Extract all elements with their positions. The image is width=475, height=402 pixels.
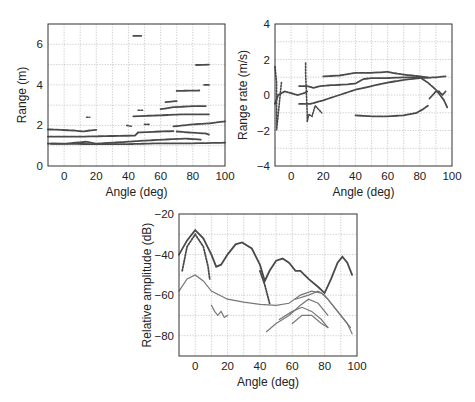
series-blip-2m bbox=[127, 125, 132, 126]
figure: 0204060801000246Angle (deg)Range (m)0204… bbox=[0, 0, 475, 402]
x-tick-label: 0 bbox=[192, 360, 198, 372]
series-track-1.6m-lower bbox=[177, 132, 209, 135]
y-axis-label: Relative amplitude (dB) bbox=[140, 223, 154, 348]
y-tick-label: −4 bbox=[257, 160, 271, 172]
x-tick-label: 100 bbox=[442, 170, 461, 182]
y-tick-label: −2 bbox=[257, 125, 270, 137]
data-series bbox=[48, 36, 225, 144]
x-tick-label: 80 bbox=[413, 170, 426, 182]
x-axis-label: Angle (deg) bbox=[237, 375, 299, 389]
series-cluster-70deg-a bbox=[266, 299, 328, 332]
series-track-3.2m bbox=[166, 101, 177, 102]
series-track-1.45m bbox=[48, 131, 174, 137]
y-tick-label: −60 bbox=[154, 289, 174, 301]
x-tick-label: 80 bbox=[318, 360, 331, 372]
chart-range: 0204060801000246Angle (deg)Range (m) bbox=[15, 24, 235, 199]
series-blips-left bbox=[275, 67, 281, 131]
x-tick-label: 100 bbox=[215, 170, 234, 182]
tick-labels: 020406080100−20−40−60−80 bbox=[154, 208, 366, 372]
gridlines bbox=[275, 24, 452, 166]
y-tick-label: 2 bbox=[37, 119, 43, 131]
y-axis-label: Range rate (m/s) bbox=[236, 50, 250, 140]
series-track-2.5m bbox=[133, 114, 209, 116]
y-tick-label: 4 bbox=[264, 18, 271, 30]
x-tick-label: 60 bbox=[381, 170, 394, 182]
series-track-negative bbox=[356, 106, 428, 117]
y-tick-label: −40 bbox=[154, 249, 174, 261]
x-tick-label: 0 bbox=[61, 170, 67, 182]
y-tick-label: 6 bbox=[37, 38, 43, 50]
y-tick-label: −80 bbox=[154, 330, 174, 342]
x-tick-label: 20 bbox=[90, 170, 103, 182]
y-tick-label: −20 bbox=[154, 208, 174, 220]
x-tick-label: 60 bbox=[154, 170, 167, 182]
x-tick-label: 20 bbox=[221, 360, 234, 372]
y-tick-label: 0 bbox=[37, 160, 43, 172]
data-series bbox=[179, 230, 352, 334]
y-tick-label: 2 bbox=[264, 54, 270, 66]
y-axis-label: Range (m) bbox=[15, 67, 29, 124]
x-tick-label: 0 bbox=[288, 170, 294, 182]
x-tick-label: 40 bbox=[349, 170, 362, 182]
x-axis-label: Angle (deg) bbox=[332, 185, 394, 199]
plot-frame bbox=[275, 24, 452, 166]
chart-amplitude: 020406080100−20−40−60−80Angle (deg)Relat… bbox=[140, 208, 367, 389]
series-track-main-upper bbox=[299, 77, 447, 107]
chart-range-rate: 020406080100−4−2024Angle (deg)Range rate… bbox=[236, 18, 462, 199]
y-tick-label: 0 bbox=[264, 89, 270, 101]
tick-labels: 020406080100−4−2024 bbox=[257, 18, 462, 182]
series-track-2.9m bbox=[161, 106, 206, 109]
x-axis-label: Angle (deg) bbox=[105, 185, 167, 199]
charts-svg: 0204060801000246Angle (deg)Range (m)0204… bbox=[0, 0, 475, 402]
data-series bbox=[275, 63, 447, 131]
plot-frame bbox=[179, 214, 357, 356]
x-tick-label: 60 bbox=[286, 360, 299, 372]
gridlines bbox=[179, 214, 357, 356]
x-tick-label: 20 bbox=[317, 170, 330, 182]
x-tick-label: 80 bbox=[186, 170, 199, 182]
y-tick-label: 4 bbox=[37, 79, 44, 91]
series-track-1.75m bbox=[48, 130, 96, 132]
tick-labels: 0204060801000246 bbox=[37, 38, 235, 182]
x-tick-label: 40 bbox=[254, 360, 267, 372]
x-tick-label: 100 bbox=[347, 360, 366, 372]
x-tick-label: 40 bbox=[122, 170, 135, 182]
